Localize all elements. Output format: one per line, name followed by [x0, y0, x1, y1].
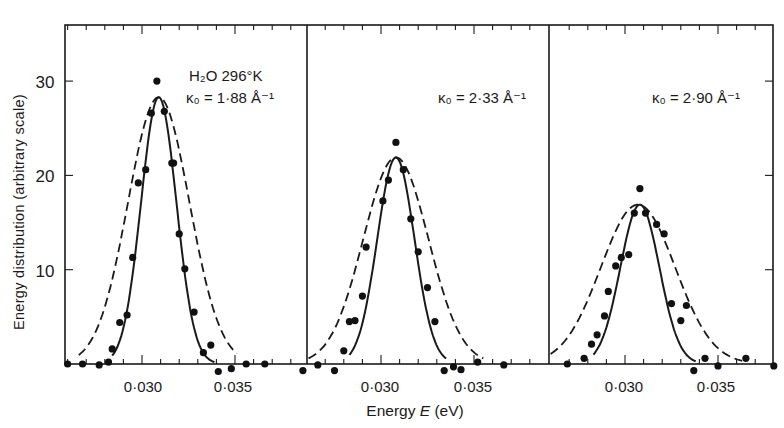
panel3-data-point: [668, 300, 675, 307]
x-axis-label-unit: (eV): [430, 402, 464, 419]
panel1-data-point: [153, 78, 160, 85]
panel1-data-point: [148, 110, 155, 117]
panel2-data-point: [400, 166, 407, 173]
panel3-annotation-kappa: κ₀ = 2·90 Å⁻¹: [652, 89, 740, 106]
panel3-data-point: [601, 312, 608, 319]
panel1-data-point: [142, 166, 149, 173]
panel2-data-point: [314, 361, 321, 368]
panel2-solid-curve: [349, 158, 446, 359]
panel3-data-point: [588, 341, 595, 348]
panel2-data-point: [379, 197, 386, 204]
ytick-label-30: 30: [36, 73, 55, 92]
panel3-data-point: [581, 355, 588, 362]
panel3-data-point: [683, 302, 690, 309]
panel3-data-point: [642, 210, 649, 217]
panel3-data-point: [653, 221, 660, 228]
axis-ticks: [65, 25, 773, 364]
panel1-data-point: [243, 360, 250, 367]
ytick-label-20: 20: [36, 167, 55, 186]
panel3-data-point: [631, 210, 638, 217]
panel3-data-point: [677, 317, 684, 324]
panel2-data-point: [351, 317, 358, 324]
panel3-data-point: [690, 367, 697, 374]
panel1-data-point: [96, 361, 103, 368]
panel2-data-point: [450, 363, 457, 370]
x-axis-label-prefix: Energy: [366, 402, 419, 419]
panel3-data-point: [564, 360, 571, 367]
panel3-data-point: [612, 262, 619, 269]
fit-curves: [79, 97, 742, 362]
panel1-data-point: [129, 254, 136, 261]
xtick-label-p3-0035: 0·035: [697, 378, 735, 395]
xtick-label-p2-0030: 0·030: [361, 378, 399, 395]
panel3-data-point: [770, 362, 777, 369]
panel1-data-point: [116, 319, 123, 326]
panel2-data-point: [299, 367, 306, 374]
panel1-data-point: [215, 368, 222, 375]
panel2-data-point: [500, 361, 507, 368]
panel2-dashed-curve: [309, 158, 484, 359]
panel1-data-point: [109, 345, 116, 352]
panel3-data-point: [605, 288, 612, 295]
energy-distribution-figure: 30 20 10 Energy distribution (arbitrary …: [0, 0, 784, 428]
x-axis-label-variable: E: [420, 402, 431, 419]
panel1-data-point: [161, 108, 168, 115]
panel2-data-point: [331, 367, 338, 374]
y-axis-label: Energy distribution (arbitrary scale): [11, 94, 27, 330]
panel2-data-point: [457, 366, 464, 373]
panel1-data-point: [64, 360, 71, 367]
panel2-data-point: [340, 347, 347, 354]
xtick-label-p3-0030: 0·030: [605, 378, 643, 395]
panel1-data-point: [124, 311, 131, 318]
panel1-dashed-curve: [79, 97, 237, 355]
panel1-data-point: [79, 360, 86, 367]
panel2-annotation-kappa: κ₀ = 2·33 Å⁻¹: [438, 89, 526, 106]
xtick-label-p1-0035: 0·035: [214, 378, 252, 395]
panel3-data-point: [636, 185, 643, 192]
x-axis-label: Energy E (eV): [366, 402, 463, 419]
panel2-data-point: [407, 215, 414, 222]
panel2-data-point: [392, 139, 399, 146]
data-points: [64, 78, 777, 376]
panel3-data-point: [661, 230, 668, 237]
panel3-data-point: [714, 362, 721, 369]
panel1-data-point: [135, 179, 142, 186]
panel1-data-point: [261, 360, 268, 367]
panel1-annotation-sample: H₂O 296°K: [189, 67, 263, 84]
panel2-data-point: [424, 284, 431, 291]
panel1-data-point: [170, 160, 177, 167]
panel1-data-point: [176, 230, 183, 237]
panel1-data-point: [105, 359, 112, 366]
panel2-data-point: [385, 177, 392, 184]
panel3-data-point: [594, 331, 601, 338]
panel1-data-point: [191, 309, 198, 316]
panel3-data-point: [742, 355, 749, 362]
panel2-data-point: [363, 244, 370, 251]
panel2-data-point: [441, 367, 448, 374]
plot-frame: [65, 25, 773, 364]
panel1-data-point: [181, 265, 188, 272]
panel3-data-point: [625, 251, 632, 258]
panel2-data-point: [474, 359, 481, 366]
panel3-data-point: [618, 254, 625, 261]
ytick-label-10: 10: [36, 262, 55, 281]
panel1-annotation-kappa: κ₀ = 1·88 Å⁻¹: [186, 89, 274, 106]
panel1-data-point: [200, 349, 207, 356]
panel3-dashed-curve: [551, 205, 743, 361]
panel1-data-point: [228, 365, 235, 372]
panel1-data-point: [207, 342, 214, 349]
panel2-data-point: [431, 318, 438, 325]
panel3-data-point: [701, 355, 708, 362]
xtick-label-p2-0035: 0·035: [454, 378, 492, 395]
panel1-solid-curve: [112, 97, 214, 362]
panel2-data-point: [415, 248, 422, 255]
xtick-label-p1-0030: 0·030: [124, 378, 162, 395]
panel2-data-point: [359, 293, 366, 300]
